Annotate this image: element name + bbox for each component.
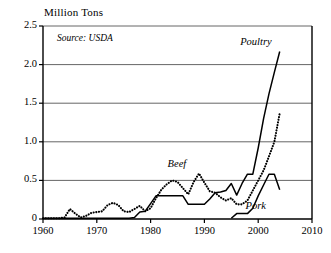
y-tick-label: 1.0 (2, 135, 37, 146)
data-series (43, 51, 280, 218)
x-tick-label: 1990 (184, 225, 224, 236)
y-tick-label: 1.5 (2, 96, 37, 107)
series-label-pork: Pork (246, 200, 266, 211)
x-tick-label: 1970 (77, 225, 117, 236)
series-line-poultry (43, 51, 280, 218)
x-tick-label: 1960 (23, 225, 63, 236)
y-tick-label: 0 (2, 212, 37, 223)
x-tick-label: 2000 (238, 225, 278, 236)
x-tick-label: 2010 (292, 225, 331, 236)
y-tick-label: 0.5 (2, 173, 37, 184)
series-label-beef: Beef (168, 158, 187, 169)
chart-container: Million Tons Source: USDA 00.51.01.52.02… (0, 0, 331, 253)
chart-plot-area (0, 0, 331, 253)
series-line-beef (43, 113, 280, 218)
series-label-poultry: Poultry (240, 36, 272, 47)
x-tick-label: 1980 (131, 225, 171, 236)
axis-tickmarks (39, 26, 312, 223)
axis-lines (43, 26, 312, 219)
y-tick-label: 2.0 (2, 58, 37, 69)
y-tick-label: 2.5 (2, 19, 37, 30)
